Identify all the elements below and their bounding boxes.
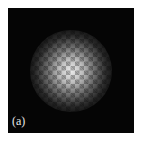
panel-label: (a): [12, 114, 25, 129]
checkerboard-pattern: [30, 30, 112, 112]
image-panel: (a): [8, 8, 134, 133]
